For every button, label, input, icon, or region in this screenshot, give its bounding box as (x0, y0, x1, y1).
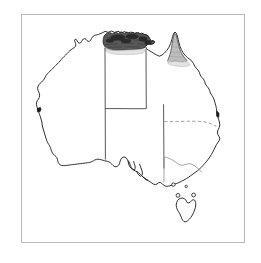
island-kangaroo (172, 183, 175, 186)
island-small-a (185, 185, 187, 187)
east-coast-notch (217, 111, 219, 117)
west-coast-notch (37, 107, 41, 112)
island-king (176, 194, 180, 198)
offshore-islands (172, 183, 196, 197)
map-figure: core distribution - Top End and Kimberle… (0, 0, 261, 263)
island-flinders (192, 193, 196, 197)
tasmania-outline (176, 198, 196, 222)
australia-map-svg (0, 0, 261, 263)
